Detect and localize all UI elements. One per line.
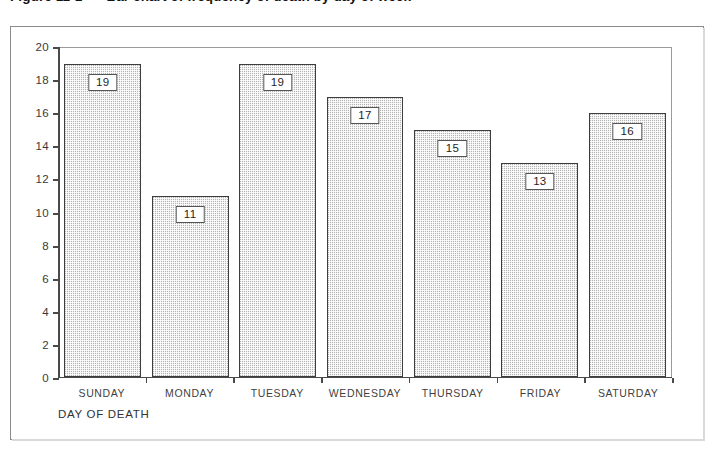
x-axis-tick-mark [672,378,674,383]
bar[interactable]: 13 [501,163,578,378]
y-axis-tick-label: 12 [36,173,49,185]
bar-value-label: 13 [525,173,554,190]
bars-layer: 19111917151316 [59,47,671,377]
y-axis-tick-label: 20 [36,41,49,53]
x-axis-tick-mark [321,378,323,383]
bar-value-label: 17 [350,107,379,124]
plot-area: 20181614121086420 19111917151316 SUNDAYM… [58,47,672,378]
y-axis-tick-mark [53,378,59,380]
bar-slot: 11 [146,47,233,377]
figure-caption-text: Bar chart of frequency of death by day o… [106,0,411,4]
x-axis-tick-mark [233,378,235,383]
y-axis-tick-label: 6 [42,273,49,285]
y-axis-tick-label: 14 [36,140,49,152]
figure-caption: Figure 11-1Bar chart of frequency of dea… [10,0,710,9]
bar-slot: 17 [321,47,408,377]
x-axis-category-label: SUNDAY [79,387,126,399]
bar-value-label: 19 [88,74,117,91]
y-axis-tick-label: 0 [42,372,49,384]
bar[interactable]: 19 [239,64,316,378]
x-axis-tick-mark [146,378,148,383]
bar[interactable]: 16 [589,113,666,377]
x-axis-tick-mark [497,378,499,383]
bar-value-label: 16 [613,123,642,140]
x-axis-category-label: MONDAY [165,387,214,399]
x-axis-category-label: SATURDAY [598,387,658,399]
plot-right-rule [671,47,672,378]
x-axis-title: DAY OF DEATH [58,408,149,420]
x-axis-category-label: TUESDAY [251,387,304,399]
x-axis-tick-mark [584,378,586,383]
y-axis-tick-label: 16 [36,107,49,119]
bar[interactable]: 15 [414,130,491,378]
bar-slot: 13 [496,47,583,377]
bar[interactable]: 11 [152,196,229,378]
y-axis-tick-label: 18 [36,74,49,86]
bar-slot: 19 [234,47,321,377]
y-axis-tick-label: 2 [42,339,49,351]
x-axis-category-label: WEDNESDAY [329,387,401,399]
bar[interactable]: 19 [64,64,141,378]
bar-slot: 16 [584,47,671,377]
bar-slot: 19 [59,47,146,377]
bar-value-label: 15 [438,140,467,157]
x-axis-tick-mark [409,378,411,383]
y-axis-tick-label: 8 [42,240,49,252]
figure-number: Figure 11-1 [10,0,82,4]
x-axis-category-label: THURSDAY [422,387,484,399]
bar-slot: 15 [409,47,496,377]
y-axis-tick-label: 4 [42,306,49,318]
y-axis-tick-label: 10 [36,207,49,219]
bar-value-label: 11 [176,206,205,223]
x-axis-category-label: FRIDAY [520,387,561,399]
bar[interactable]: 17 [327,97,404,378]
bar-value-label: 19 [263,74,292,91]
chart-frame: 20181614121086420 19111917151316 SUNDAYM… [10,26,704,440]
